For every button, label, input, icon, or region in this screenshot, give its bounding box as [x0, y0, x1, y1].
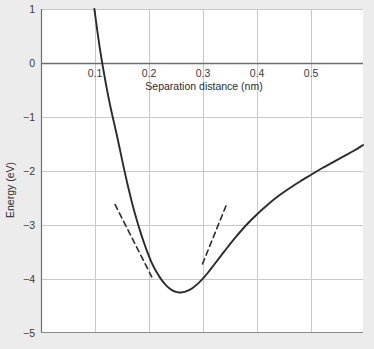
y-tick-label: 1	[29, 3, 35, 15]
x-tick-label: 0.4	[250, 67, 265, 79]
x-tick-label: 0.3	[196, 67, 211, 79]
y-tick-label: 0	[29, 57, 35, 69]
y-tick-label: −2	[23, 165, 35, 177]
energy-separation-chart: 0.10.20.30.40.5 10−1−2−3−4−5 Separation …	[0, 0, 374, 349]
y-tick-label: −3	[23, 219, 35, 231]
x-axis-title: Separation distance (nm)	[145, 80, 262, 92]
x-tick-label: 0.5	[304, 67, 319, 79]
y-tick-label: −5	[23, 327, 35, 339]
y-tick-label: −1	[23, 111, 35, 123]
x-tick-label: 0.2	[142, 67, 157, 79]
y-axis-title: Energy (eV)	[4, 162, 16, 218]
x-tick-label: 0.1	[88, 67, 103, 79]
y-tick-label: −4	[23, 273, 35, 285]
chart-figure: 0.10.20.30.40.5 10−1−2−3−4−5 Separation …	[0, 0, 374, 349]
